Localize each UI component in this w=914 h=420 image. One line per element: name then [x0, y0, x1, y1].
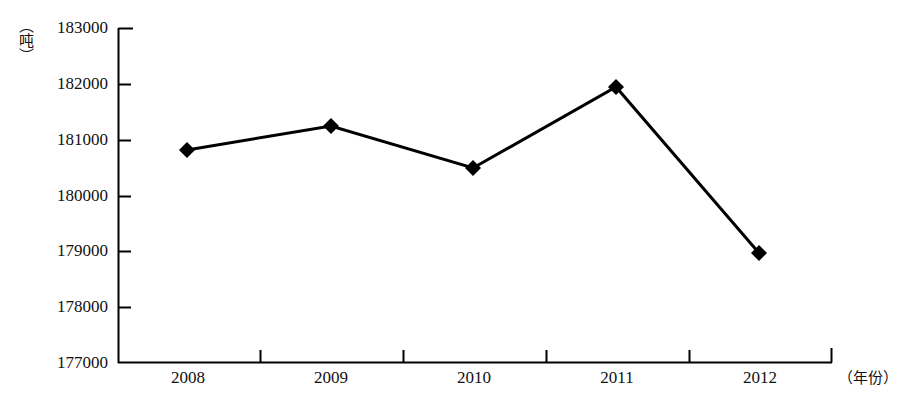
x-axis [118, 348, 832, 363]
data-point-marker [179, 142, 195, 158]
x-axis-unit-label: （年份） [838, 368, 898, 388]
data-point-marker [465, 160, 481, 176]
x-tick-label: 2008 [143, 368, 233, 388]
y-axis [119, 28, 134, 363]
x-tick-label: 2010 [429, 368, 519, 388]
data-markers [179, 79, 767, 261]
line-chart: （吨） 183000 182000 181000 180000 179000 1… [0, 0, 914, 420]
x-tick-label: 2009 [286, 368, 376, 388]
x-tick-label: 2012 [715, 368, 805, 388]
plot-area [0, 0, 914, 420]
x-tick-label: 2011 [572, 368, 662, 388]
data-point-marker [323, 118, 339, 134]
